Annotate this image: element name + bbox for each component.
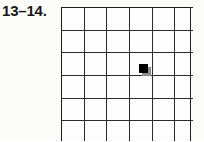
grid-row	[62, 53, 194, 76]
grid-cell-r2-c2[interactable]	[84, 30, 107, 53]
grid-cell-r2-c6[interactable]	[175, 30, 193, 53]
grid-cell-r1-c2[interactable]	[84, 8, 107, 31]
grid-cell-r3-c2[interactable]	[84, 53, 107, 76]
grid-cell-r1-c4[interactable]	[130, 8, 153, 31]
grid-cell-r4-c2[interactable]	[84, 76, 107, 99]
grid-cell-r5-c1[interactable]	[62, 98, 85, 121]
grid-cell-r2-c4[interactable]	[130, 30, 153, 53]
grid-cell-r6-c5[interactable]	[152, 121, 175, 141]
grid-cell-r1-c5[interactable]	[152, 8, 175, 31]
grid-row	[62, 76, 194, 99]
grid-cell-r5-c6[interactable]	[175, 98, 193, 121]
grid-cell-r3-c1[interactable]	[62, 53, 85, 76]
grid-cell-r5-c5[interactable]	[152, 98, 175, 121]
grid-cell-r1-c1[interactable]	[62, 8, 85, 31]
grid-row	[62, 30, 194, 53]
grid-cell-r4-c3[interactable]	[107, 76, 130, 99]
grid-cell-r2-c1[interactable]	[62, 30, 85, 53]
grid-body	[62, 8, 194, 142]
grid-row	[62, 98, 194, 121]
grid-cell-r2-c5[interactable]	[152, 30, 175, 53]
figure-label: 13–14.	[2, 2, 47, 20]
grid-cell-r6-c2[interactable]	[84, 121, 107, 141]
grid-region[interactable]	[61, 7, 193, 141]
grid-cell-r5-c2[interactable]	[84, 98, 107, 121]
grid-cell-r3-c6[interactable]	[175, 53, 193, 76]
grid-cell-r6-c1[interactable]	[62, 121, 85, 141]
grid-cell-r4-c5[interactable]	[152, 76, 175, 99]
grid-cell-r5-c3[interactable]	[107, 98, 130, 121]
grid-cell-r3-c3[interactable]	[107, 53, 130, 76]
grid-cell-r1-c3[interactable]	[107, 8, 130, 31]
grid-row	[62, 8, 194, 31]
grid-cell-r3-c5[interactable]	[152, 53, 175, 76]
figure-container: 13–14.	[0, 0, 204, 141]
grid-table[interactable]	[61, 7, 193, 141]
grid-cell-r5-c4[interactable]	[130, 98, 153, 121]
grid-cell-r6-c3[interactable]	[107, 121, 130, 141]
grid-row	[62, 121, 194, 141]
grid-cell-r6-c6[interactable]	[175, 121, 193, 141]
grid-cell-r4-c4[interactable]	[130, 76, 153, 99]
grid-cell-r4-c1[interactable]	[62, 76, 85, 99]
grid-cell-r4-c6[interactable]	[175, 76, 193, 99]
grid-cell-r1-c6[interactable]	[175, 8, 193, 31]
grid-cell-r6-c4[interactable]	[130, 121, 153, 141]
grid-cell-r2-c3[interactable]	[107, 30, 130, 53]
filled-square-marker[interactable]	[139, 64, 148, 73]
